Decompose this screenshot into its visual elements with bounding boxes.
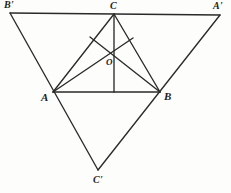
vertex-label-a: A [41, 92, 48, 103]
center-point-label-o: O [106, 58, 113, 67]
cevian-B-to-O-extended [90, 37, 160, 92]
inner-left-A-C [53, 14, 114, 92]
vertex-label-c-prime: C' [93, 175, 102, 185]
vertex-label-b-prime: B' [4, 0, 13, 10]
vertex-label-a-prime: A' [213, 1, 222, 11]
cevian-A-to-O-extended [53, 38, 133, 92]
geometry-diagram [0, 0, 231, 193]
figure-container: B' C A' A B O C' [0, 0, 231, 193]
vertex-label-c: C [110, 1, 117, 11]
inner-right-B-C [114, 14, 160, 92]
vertex-label-b: B [164, 91, 171, 102]
